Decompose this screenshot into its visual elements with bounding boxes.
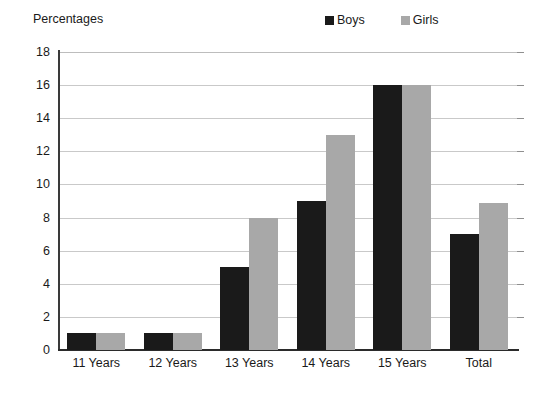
x-tick-label-12-years: 12 Years	[135, 356, 212, 370]
y-tick-mark-18	[517, 52, 524, 53]
y-tick-label-0: 0	[2, 344, 50, 356]
x-tick-label-13-years: 13 Years	[211, 356, 288, 370]
bar-girls-total	[479, 203, 508, 350]
bar-girls-12-years	[173, 333, 202, 350]
y-tick-label-8: 8	[2, 212, 50, 224]
bar-boys-14-years	[297, 201, 326, 350]
y-tick-label-10: 10	[2, 178, 50, 190]
x-tick-label-15-years: 15 Years	[364, 356, 441, 370]
bar-girls-13-years	[249, 218, 278, 350]
y-tick-label-2: 2	[2, 311, 50, 323]
x-tick-label-11-years: 11 Years	[58, 356, 135, 370]
y-tick-mark-8	[517, 218, 524, 219]
y-tick-label-12: 12	[2, 145, 50, 157]
x-tick-label-total: Total	[441, 356, 518, 370]
bar-boys-total	[450, 234, 479, 350]
legend-label-girls: Girls	[413, 14, 439, 27]
chart-legend: Boys Girls	[325, 14, 439, 27]
legend-item-boys: Boys	[325, 14, 365, 27]
y-tick-mark-2	[517, 317, 524, 318]
x-axis-tick-labels: 11 Years12 Years13 Years14 Years15 Years…	[58, 356, 517, 378]
y-tick-label-14: 14	[2, 112, 50, 124]
legend-swatch-girls	[401, 16, 410, 25]
bar-boys-12-years	[144, 333, 173, 350]
bar-series-container	[58, 52, 517, 350]
bar-girls-15-years	[402, 85, 431, 350]
y-axis-title: Percentages	[33, 12, 103, 26]
y-tick-mark-14	[517, 118, 524, 119]
y-tick-label-18: 18	[2, 46, 50, 58]
y-tick-label-16: 16	[2, 79, 50, 91]
y-tick-label-6: 6	[2, 245, 50, 257]
y-axis-tick-labels: 024681012141618	[0, 52, 50, 350]
y-tick-mark-16	[517, 85, 524, 86]
y-tick-mark-6	[517, 251, 524, 252]
y-tick-mark-4	[517, 284, 524, 285]
y-tick-mark-12	[517, 151, 524, 152]
legend-item-girls: Girls	[401, 14, 439, 27]
bar-girls-14-years	[326, 135, 355, 350]
y-tick-mark-10	[517, 184, 524, 185]
bar-boys-11-years	[67, 333, 96, 350]
y-tick-label-4: 4	[2, 278, 50, 290]
bar-boys-13-years	[220, 267, 249, 350]
x-tick-label-14-years: 14 Years	[288, 356, 365, 370]
bar-girls-11-years	[96, 333, 125, 350]
legend-swatch-boys	[325, 16, 334, 25]
legend-label-boys: Boys	[337, 14, 365, 27]
bar-chart: Percentages Boys Girls 024681012141618 1…	[0, 0, 541, 393]
bar-boys-15-years	[373, 85, 402, 350]
